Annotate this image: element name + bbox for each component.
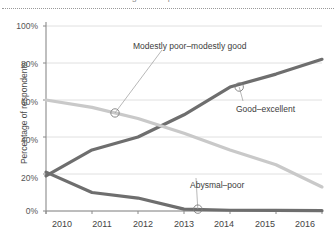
axis-ticks [43, 26, 322, 214]
annotation-good-excellent: Good–excellent [236, 104, 295, 114]
annotation-abysmal-poor: Abysmal–poor [190, 180, 244, 190]
series-lines [46, 59, 322, 210]
annotation-modestly-poor-modestly-good: Modestly poor–modestly good [133, 41, 246, 51]
gridlines [46, 26, 322, 211]
chart-figure: Percentage of respondents Percentage of … [0, 0, 336, 237]
plot-area [0, 0, 336, 237]
